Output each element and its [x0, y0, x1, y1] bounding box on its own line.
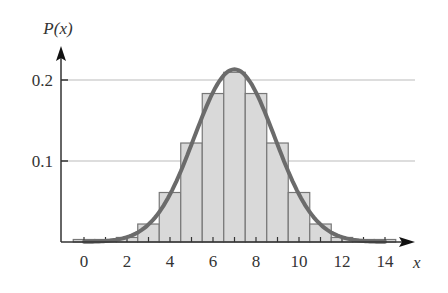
- x-axis-tick-labels: 02468101214: [80, 252, 394, 271]
- y-tick-label: 0.1: [32, 152, 53, 171]
- x-axis-label: x: [412, 253, 421, 272]
- histogram-bar: [288, 193, 310, 242]
- y-tick-label: 0.2: [32, 71, 53, 90]
- x-tick-label: 10: [291, 252, 308, 271]
- probability-distribution-chart: 0.10.2 02468101214 P(x) x: [0, 0, 448, 293]
- histogram-bars: [73, 72, 396, 242]
- y-axis-tick-labels: 0.10.2: [32, 71, 53, 171]
- x-tick-label: 6: [209, 252, 218, 271]
- x-tick-label: 2: [123, 252, 132, 271]
- x-tick-label: 12: [334, 252, 351, 271]
- histogram-bar: [159, 193, 181, 242]
- x-tick-label: 4: [166, 252, 175, 271]
- histogram-bar: [181, 143, 203, 242]
- histogram-bar: [224, 72, 246, 242]
- histogram-bar: [202, 94, 224, 242]
- x-tick-label: 14: [377, 252, 395, 271]
- y-axis-label: P(x): [42, 19, 73, 38]
- x-tick-label: 0: [80, 252, 89, 271]
- x-tick-label: 8: [252, 252, 261, 271]
- histogram-bar: [245, 94, 267, 242]
- histogram-bar: [267, 143, 289, 242]
